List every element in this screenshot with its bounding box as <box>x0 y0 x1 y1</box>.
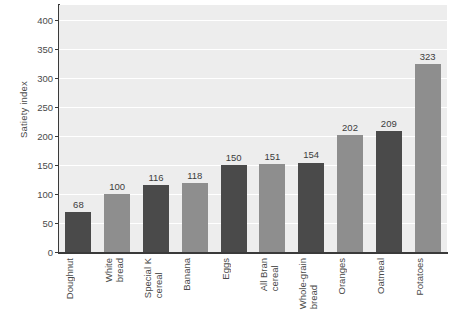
x-axis-category-label: All Bran cereal <box>259 258 285 291</box>
y-axis-tick-label: 0 <box>11 247 53 258</box>
x-axis-category-label: Eggs <box>221 258 247 280</box>
x-axis-category-label: Special K cereal <box>143 258 169 298</box>
plot-area: 050100150200250300350400 681001161181501… <box>59 5 447 252</box>
bar-value-label: 150 <box>214 152 254 163</box>
y-axis-tick-label: 250 <box>11 101 53 112</box>
bar[interactable] <box>259 164 285 252</box>
bar-value-label: 116 <box>136 172 176 183</box>
bar-value-label: 118 <box>175 170 215 181</box>
bar-value-label: 100 <box>97 181 137 192</box>
bar-value-label: 323 <box>408 51 448 62</box>
bar[interactable] <box>298 163 324 253</box>
x-axis-category-label: Potatoes <box>415 258 441 296</box>
y-axis-tick-label: 200 <box>11 130 53 141</box>
x-axis-category-label: Oranges <box>337 258 363 294</box>
y-axis-tick-label: 50 <box>11 217 53 228</box>
bar-chart: Satiety index 050100150200250300350400 6… <box>0 0 458 329</box>
bar[interactable] <box>221 165 247 252</box>
x-axis-category-label: Doughnut <box>65 258 91 299</box>
y-axis-tick-label: 100 <box>11 188 53 199</box>
y-axis-tick-mark <box>55 252 59 253</box>
x-axis-category-label: Banana <box>182 258 208 291</box>
bar[interactable] <box>182 183 208 252</box>
x-axis-line <box>58 252 448 254</box>
x-axis-labels: DoughnutWhite breadSpecial K cerealBanan… <box>0 258 458 329</box>
y-axis-tick-label: 150 <box>11 159 53 170</box>
x-axis-category-label: Whole-grain bread <box>298 258 324 309</box>
bar[interactable] <box>143 185 169 252</box>
bar[interactable] <box>415 64 441 252</box>
bars-group: 68100116118150151154202209323 <box>59 5 447 252</box>
x-axis-category-label: Oatmeal <box>376 258 402 294</box>
x-axis-category-label: White bread <box>104 258 130 282</box>
y-axis-tick-label: 400 <box>11 14 53 25</box>
bar[interactable] <box>104 194 130 252</box>
y-axis-tick-label: 350 <box>11 43 53 54</box>
bar[interactable] <box>376 131 402 252</box>
bar-value-label: 209 <box>369 118 409 129</box>
y-axis-tick-label: 300 <box>11 72 53 83</box>
bar-value-label: 154 <box>291 149 331 160</box>
bar[interactable] <box>337 135 363 252</box>
bar-value-label: 68 <box>58 199 98 210</box>
bar-value-label: 151 <box>252 151 292 162</box>
bar[interactable] <box>65 212 91 252</box>
bar-value-label: 202 <box>330 122 370 133</box>
